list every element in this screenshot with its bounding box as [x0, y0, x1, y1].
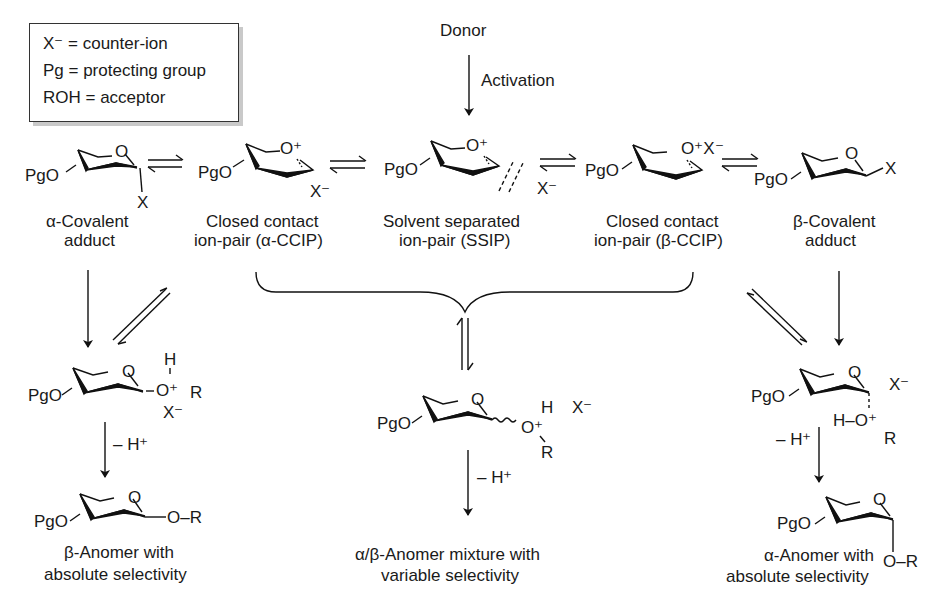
alpha-covalent-label-2: adduct [64, 231, 115, 251]
ring-oxygen: O [115, 143, 128, 161]
mixture-label-2: variable selectivity [381, 566, 519, 586]
ring-oxygen: O [848, 364, 861, 382]
beta-ccip-label-1: Closed contact [606, 212, 718, 232]
beta-ccip-label-2: ion-pair (β-CCIP) [594, 231, 723, 251]
legend-box: X⁻ = counter-ion Pg = protecting group R… [29, 23, 239, 122]
mixture-label-1: α/β-Anomer mixture with [355, 545, 540, 565]
oxocarbenium-counter-ion: O⁺X⁻ [681, 140, 724, 158]
oxocarbenium-oxygen: O⁺ [466, 137, 488, 155]
pgo-label: PgO [754, 171, 788, 189]
r-group: R [884, 430, 896, 448]
equilibrium-arrow-1 [148, 155, 183, 172]
ring-oxygen: O [122, 363, 135, 381]
ssip-label-2: ion-pair (SSIP) [399, 231, 510, 251]
pyranose-ring-alpha-covalent [66, 150, 142, 192]
ssip-label-1: Solvent separated [383, 212, 520, 232]
pyranose-ring-beta-intermediate [62, 368, 170, 395]
equilibrium-arrow-vertical-middle [457, 318, 473, 370]
beta-covalent-label-2: adduct [805, 231, 856, 251]
hydrogen-label: H [541, 399, 553, 417]
counter-ion: X⁻ [310, 183, 330, 201]
alpha-ccip-label-1: Closed contact [206, 212, 318, 232]
pgo-label: PgO [384, 161, 418, 179]
grouping-brace [256, 272, 693, 312]
ring-oxygen: O [128, 489, 141, 507]
pgo-label: PgO [25, 167, 59, 185]
pgo-label: PgO [198, 164, 232, 182]
oxonium-oxygen: O⁺ [521, 419, 543, 437]
beta-anomer-label-1: β-Anomer with [64, 543, 174, 563]
counter-ion: X⁻ [163, 404, 183, 422]
glycosidic-or: O–R [883, 553, 918, 571]
leaving-group-x: X [885, 160, 896, 178]
ring-oxygen: O [873, 491, 886, 509]
r-group: R [190, 384, 202, 402]
ring-oxygen: O [845, 145, 858, 163]
pgo-label: PgO [377, 415, 411, 433]
alpha-anomer-label-1: α-Anomer with [764, 546, 874, 566]
pyranose-ring-beta-covalent [791, 153, 883, 179]
pgo-label: PgO [585, 162, 619, 180]
hydroxonium-label: H–O⁺ [833, 412, 877, 430]
alpha-anomer-label-2: absolute selectivity [726, 567, 869, 587]
deprotonation-label-middle: – H⁺ [477, 469, 512, 487]
counter-ion: X⁻ [537, 180, 557, 198]
ring-oxygen: O [471, 391, 484, 409]
leaving-group-x: X [137, 194, 148, 212]
pyranose-ring-beta-product [70, 494, 166, 521]
glycosidic-or: O–R [167, 509, 202, 527]
equilibrium-arrow-diagonal-left [113, 288, 170, 344]
beta-anomer-label-2: absolute selectivity [44, 565, 187, 585]
pgo-label: PgO [777, 515, 811, 533]
counter-ion: X⁻ [572, 399, 592, 417]
r-group: R [541, 444, 553, 462]
equilibrium-arrow-2 [330, 156, 366, 173]
hydrogen-label: H [164, 351, 176, 369]
deprotonation-label-right: – H⁺ [776, 431, 811, 449]
alpha-ccip-label-2: ion-pair (α-CCIP) [194, 231, 323, 251]
alpha-covalent-label-1: α-Covalent [46, 212, 129, 232]
equilibrium-arrow-3 [540, 154, 576, 171]
pgo-label: PgO [34, 513, 68, 531]
activation-label: Activation [481, 71, 555, 91]
deprotonation-label-left: – H⁺ [113, 436, 148, 454]
pgo-label: PgO [28, 387, 62, 405]
beta-covalent-label-1: β-Covalent [793, 212, 876, 232]
legend-item-counter-ion: X⁻ = counter-ion [43, 30, 238, 57]
oxonium-oxygen: O⁺ [156, 382, 178, 400]
pgo-label: PgO [751, 388, 785, 406]
counter-ion: X⁻ [889, 376, 909, 394]
oxocarbenium-oxygen: O⁺ [280, 140, 302, 158]
legend-item-acceptor: ROH = acceptor [43, 84, 238, 111]
equilibrium-arrow-4 [722, 154, 758, 171]
donor-label: Donor [440, 21, 486, 41]
legend-item-protecting-group: Pg = protecting group [43, 57, 238, 84]
wavy-bond [492, 418, 516, 422]
equilibrium-arrow-diagonal-right [747, 289, 807, 345]
